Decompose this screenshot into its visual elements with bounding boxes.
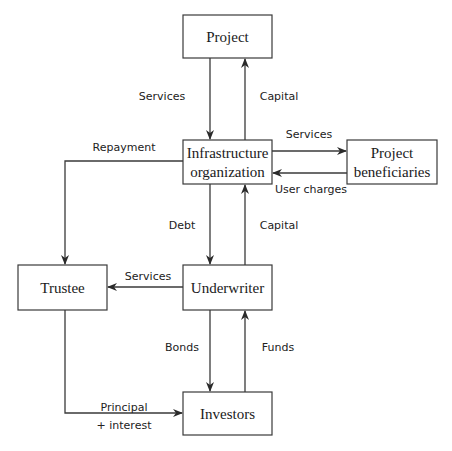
node-investors-label: Investors <box>200 406 255 422</box>
node-infrastructure-organization: Infrastructure organization <box>183 140 272 184</box>
label-user-charges: User charges <box>275 183 347 196</box>
node-underwriter: Underwriter <box>183 265 272 310</box>
label-services-project: Services <box>139 90 186 103</box>
label-debt: Debt <box>169 219 196 232</box>
node-project: Project <box>183 15 272 58</box>
arrow-trustee-to-investors <box>65 310 182 413</box>
node-trustee-label: Trustee <box>40 280 85 296</box>
node-investors: Investors <box>183 392 272 435</box>
node-project-label: Project <box>206 29 249 45</box>
label-repayment: Repayment <box>93 141 157 154</box>
label-capital-underwriter: Capital <box>260 219 299 232</box>
label-funds: Funds <box>262 341 295 354</box>
node-infra-label-line1: Infrastructure <box>187 145 269 161</box>
node-underwriter-label: Underwriter <box>191 280 264 296</box>
label-principal: Principal <box>101 401 148 414</box>
node-beneficiaries-label-line1: Project <box>371 145 414 161</box>
label-services-beneficiaries: Services <box>286 128 333 141</box>
label-services-trustee: Services <box>125 270 172 283</box>
node-beneficiaries-label-line2: beneficiaries <box>354 164 431 180</box>
node-infra-label-line2: organization <box>190 164 265 180</box>
node-project-beneficiaries: Project beneficiaries <box>347 140 437 184</box>
label-capital-project: Capital <box>260 90 299 103</box>
label-plus-interest: + interest <box>97 419 153 432</box>
node-trustee: Trustee <box>18 265 107 310</box>
flow-diagram: Project Infrastructure organization Proj… <box>0 0 452 451</box>
arrow-infra-to-trustee <box>65 161 183 264</box>
label-bonds: Bonds <box>165 341 199 354</box>
